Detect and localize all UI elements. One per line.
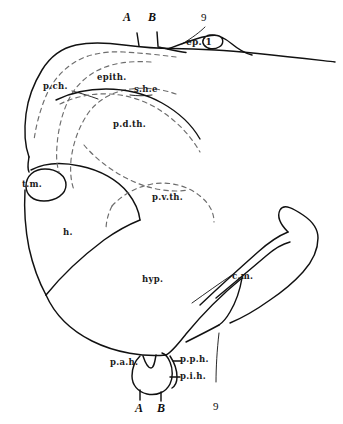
anatomical-figure: A B 9 ep. 1 p.ch. epith. s.h.e p.d.th. t… [0,0,343,424]
hypostome-ventral-path [46,295,166,355]
cm-band-inner-path [216,242,290,298]
she-leader-path [130,95,152,96]
label-p-v-th: p.v.th. [152,193,183,202]
label-top-b: B [148,11,156,23]
label-p-ch: p.ch. [43,82,68,91]
epith-dashed-path [34,52,176,140]
solid-outline-group [25,32,335,401]
head-capsule-top-path [31,164,140,220]
label-p-a-h: p.a.h. [110,358,138,367]
dorsal-outline-path [25,43,335,157]
label-t-m: t.m. [22,180,42,189]
top-tick-b-path [157,32,158,46]
label-h: h. [63,228,73,237]
label-bottom-b: B [157,402,165,414]
pvth-dashed-path [112,183,214,222]
head-hypostome-divider-path [46,220,140,295]
pdth-dashed-lower-path [84,145,188,191]
pdth-dashed-upper-path [71,88,176,190]
head-left-border-path [25,190,46,295]
label-s-h-e: s.h.e [134,85,158,94]
label-top-nine: 9 [201,12,207,23]
label-c-m: c.m. [232,272,253,281]
hypostome-posterior-wall-path [166,278,242,355]
label-p-p-h: p.p.h. [180,355,209,364]
cm-band-upper-path [200,232,288,305]
top-tick-a-path [137,33,139,46]
leader-line-group [72,27,232,382]
paragnath-notch-path [143,355,156,368]
label-p-d-th: p.d.th. [113,120,146,129]
figure-drawing-canvas [0,0,343,424]
label-p-i-h: p.i.h. [180,372,206,381]
label-top-a: A [123,11,131,23]
anterior-margin-path [28,157,29,172]
pvth-dashed-lower-path [106,206,112,230]
label-bottom-a: A [135,402,143,414]
nine-bottom-leader-path [216,333,219,382]
label-ep: ep. 1 [186,38,212,47]
label-bottom-nine: 9 [213,401,219,412]
label-hyp: hyp. [142,275,163,284]
label-epith: epith. [97,73,126,82]
